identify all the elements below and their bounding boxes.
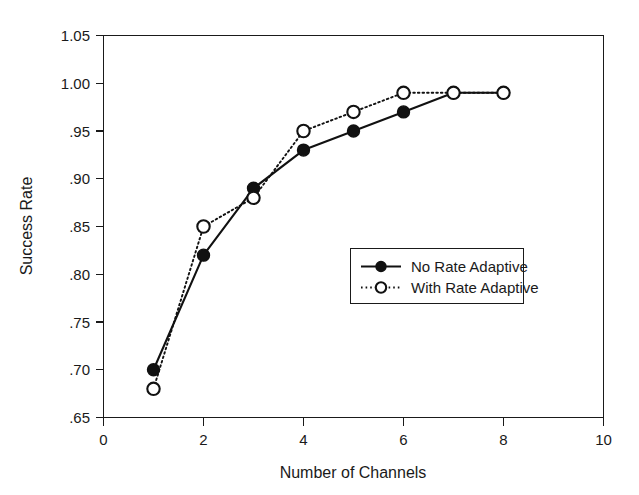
data-point <box>147 383 159 395</box>
chart-figure: 1.05 1.00 .95 .90 .85 .80 .75 .70 .65 0 … <box>0 0 639 495</box>
data-point <box>348 125 360 137</box>
y-tick-label: .90 <box>69 170 90 187</box>
x-tick-label: 10 <box>595 431 612 448</box>
series-2 <box>147 87 509 395</box>
x-tick-label: 2 <box>199 431 207 448</box>
y-tick-label: .95 <box>69 123 90 140</box>
data-point <box>297 125 309 137</box>
y-tick-label: .85 <box>69 218 90 235</box>
data-point <box>447 87 459 99</box>
chart-svg: 1.05 1.00 .95 .90 .85 .80 .75 .70 .65 0 … <box>0 0 639 495</box>
y-axis-label: Success Rate <box>18 177 35 276</box>
y-tick-label: .65 <box>69 409 90 426</box>
x-tick-label: 0 <box>99 431 107 448</box>
y-tick-label: .75 <box>69 314 90 331</box>
data-point <box>497 87 509 99</box>
y-tick-label: 1.05 <box>61 27 90 44</box>
y-tick-label: 1.00 <box>61 75 90 92</box>
legend-marker-open-circle <box>376 282 386 292</box>
x-tick-label: 4 <box>299 431 307 448</box>
y-tick-label: .70 <box>69 361 90 378</box>
x-axis-label: Number of Channels <box>280 464 427 481</box>
data-point <box>397 87 409 99</box>
legend-label: With Rate Adaptive <box>411 279 539 296</box>
data-point <box>298 144 310 156</box>
y-tick-label: .80 <box>69 266 90 283</box>
x-tick-label: 8 <box>499 431 507 448</box>
data-point <box>197 220 209 232</box>
data-series-layer <box>147 87 509 395</box>
plot-frame <box>104 36 604 418</box>
data-point <box>198 249 210 261</box>
x-axis: 0 2 4 6 8 10 <box>99 418 612 449</box>
data-point <box>398 106 410 118</box>
legend-label: No Rate Adaptive <box>411 258 528 275</box>
legend: No Rate Adaptive With Rate Adaptive <box>351 249 539 304</box>
data-point <box>347 106 359 118</box>
legend-marker-filled-circle <box>376 262 386 272</box>
data-point <box>247 192 259 204</box>
series-line <box>154 93 504 389</box>
x-tick-label: 6 <box>399 431 407 448</box>
y-axis: 1.05 1.00 .95 .90 .85 .80 .75 .70 .65 <box>61 27 104 426</box>
